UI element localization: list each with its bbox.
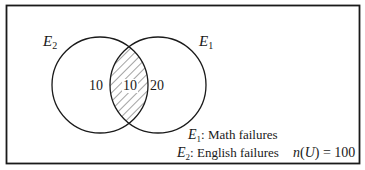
legend-e1-symbol: E xyxy=(188,127,197,142)
legend-e1-separator: : xyxy=(201,127,205,142)
legend-e2: E2: English failures xyxy=(177,146,279,162)
region-intersection-count: 10 xyxy=(122,79,138,93)
universe-total: = 100 xyxy=(323,145,355,160)
set-e1-subscript: 1 xyxy=(208,40,213,51)
universe-count: n(U) = 100 xyxy=(293,146,355,160)
region-e2-only-count: 10 xyxy=(89,79,103,93)
legend-e1-text: Math failures xyxy=(208,127,278,142)
set-e2-subscript: 2 xyxy=(52,40,57,51)
universe-n-prefix: n xyxy=(293,145,300,160)
set-e1-symbol: E xyxy=(199,33,208,49)
universe-u-symbol: U xyxy=(305,145,315,160)
legend-e2-symbol: E xyxy=(177,145,186,160)
set-e1-label: E1 xyxy=(199,34,213,51)
region-e1-only-count: 20 xyxy=(150,79,164,93)
legend-e1: E1: Math failures xyxy=(188,128,278,144)
set-e2-label: E2 xyxy=(43,34,57,51)
set-e2-symbol: E xyxy=(43,33,52,49)
universe-rectangle xyxy=(7,6,360,164)
legend-e2-separator: : xyxy=(190,145,194,160)
legend-e2-text: English failures xyxy=(197,145,279,160)
